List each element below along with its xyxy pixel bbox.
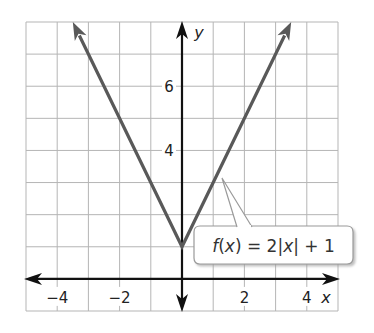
graph-canvas: −4−22446xy f(x) = 2|x| + 1 xyxy=(0,0,374,333)
x-tick-label: 2 xyxy=(240,289,250,307)
x-tick-label: 4 xyxy=(302,289,312,307)
axes xyxy=(24,21,340,312)
x-tick-label: −4 xyxy=(46,289,68,307)
y-axis-label: y xyxy=(193,23,204,42)
callout-pointer xyxy=(222,178,252,227)
x-tick-label: −2 xyxy=(109,289,131,307)
x-axis-label: x xyxy=(320,288,331,307)
function-equation: f(x) = 2|x| + 1 xyxy=(212,236,335,256)
function-label-callout: f(x) = 2|x| + 1 xyxy=(194,178,353,264)
y-tick-label: 4 xyxy=(164,142,174,160)
y-tick-label: 6 xyxy=(164,78,174,96)
